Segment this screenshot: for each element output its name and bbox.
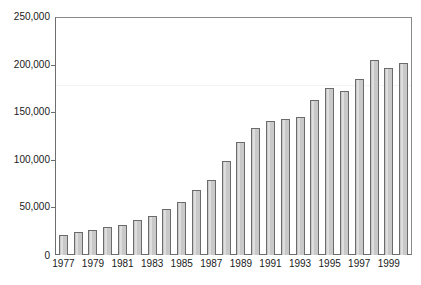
x-tick-label-1981: 1981 <box>111 258 133 269</box>
x-tick-label-1995: 1995 <box>319 258 341 269</box>
bar-1982[interactable] <box>133 220 142 255</box>
x-tick-label-1987: 1987 <box>200 258 222 269</box>
x-tick-label-1989: 1989 <box>230 258 252 269</box>
y-zero-label: 0 <box>38 250 50 261</box>
bar-1983[interactable] <box>148 216 157 255</box>
y-axis: 50,000100,000150,000200,000250,000 <box>0 0 50 285</box>
bar-1985[interactable] <box>177 202 186 255</box>
bar-1987[interactable] <box>207 180 216 255</box>
bar-1993[interactable] <box>296 117 305 255</box>
x-tick-label-1977: 1977 <box>52 258 74 269</box>
bar-1995[interactable] <box>325 88 334 255</box>
x-tick-label-1983: 1983 <box>141 258 163 269</box>
x-tick-label-1999: 1999 <box>378 258 400 269</box>
bar-1988[interactable] <box>222 161 231 255</box>
bar-1989[interactable] <box>236 142 245 255</box>
bar-1999[interactable] <box>384 68 393 255</box>
bar-1984[interactable] <box>162 209 171 255</box>
x-tick-label-1997: 1997 <box>348 258 370 269</box>
y-tick-label: 250,000 <box>0 12 50 22</box>
bar-2000[interactable] <box>399 63 408 255</box>
bar-1990[interactable] <box>251 128 260 255</box>
bar-1977[interactable] <box>59 235 68 255</box>
x-tick-label-1993: 1993 <box>289 258 311 269</box>
x-axis: 1977197919811983198519871989199119931995… <box>56 258 411 278</box>
bar-1992[interactable] <box>281 119 290 255</box>
x-tick-label-1979: 1979 <box>82 258 104 269</box>
bars-container <box>56 18 411 255</box>
y-tick-label: 200,000 <box>0 60 50 70</box>
bar-1994[interactable] <box>310 100 319 255</box>
bar-1978[interactable] <box>74 232 83 255</box>
bar-chart: 50,000100,000150,000200,000250,000 19771… <box>0 0 421 285</box>
bar-1991[interactable] <box>266 121 275 255</box>
bar-1981[interactable] <box>118 225 127 255</box>
bar-1996[interactable] <box>340 91 349 255</box>
y-tick-label: 100,000 <box>0 155 50 165</box>
bar-1986[interactable] <box>192 190 201 255</box>
bar-1997[interactable] <box>355 79 364 255</box>
bar-1980[interactable] <box>103 227 112 255</box>
bar-1998[interactable] <box>370 60 379 255</box>
y-tick-label: 50,000 <box>0 202 50 212</box>
bar-1979[interactable] <box>88 230 97 255</box>
y-tick-label: 150,000 <box>0 107 50 117</box>
x-tick-label-1985: 1985 <box>171 258 193 269</box>
x-tick-label-1991: 1991 <box>259 258 281 269</box>
